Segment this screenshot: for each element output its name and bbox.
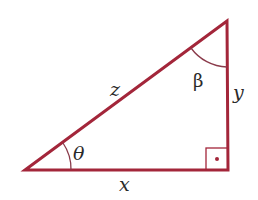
- side-label-z: z: [109, 78, 121, 100]
- angle-label-theta: θ: [73, 142, 85, 164]
- beta-angle-arc: [191, 48, 227, 67]
- angle-label-beta: β: [193, 70, 203, 91]
- right-angle-dot: [215, 157, 219, 161]
- triangle: [25, 21, 228, 170]
- theta-angle-arc: [63, 143, 71, 170]
- side-label-x: x: [119, 173, 130, 195]
- side-label-y: y: [232, 81, 244, 103]
- right-triangle-diagram: z y x θ β: [0, 0, 258, 200]
